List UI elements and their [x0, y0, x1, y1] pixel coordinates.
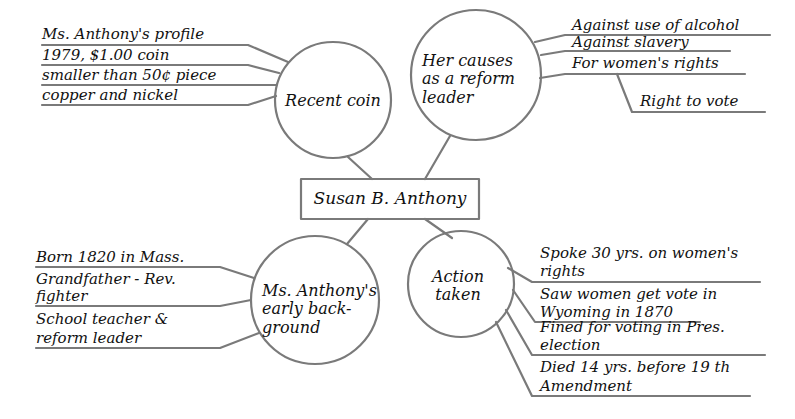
detail-action-fined-1: Fined for voting in Pres. — [540, 320, 725, 335]
node-label-early-line1: Ms. Anthony's — [262, 282, 377, 300]
detail-early-born: Born 1820 in Mass. — [36, 250, 184, 265]
detail-causes-right-to-vote: Right to vote — [640, 94, 738, 109]
detail-causes-womens-rights: For women's rights — [572, 56, 719, 71]
detail-coin-profile: Ms. Anthony's profile — [42, 27, 204, 42]
detail-action-spoke-2: rights — [540, 264, 585, 279]
detail-coin-metal: copper and nickel — [42, 88, 178, 103]
node-label-early-background: Ms. Anthony's early back- ground — [262, 282, 377, 337]
center-label: Susan B. Anthony — [301, 190, 479, 207]
detail-action-wyoming-1: Saw women get vote in — [540, 287, 717, 302]
detail-early-teacher-2: reform leader — [36, 331, 141, 346]
detail-action-died-1: Died 14 yrs. before 19 th — [540, 360, 730, 375]
detail-causes-slavery: Against slavery — [572, 35, 689, 50]
detail-action-died-2: Amendment — [540, 379, 632, 394]
mind-map-diagram: Susan B. Anthony Recent coin Ms. Anthony… — [0, 0, 795, 419]
node-label-early-line3: ground — [262, 319, 377, 337]
detail-action-fined-2: election — [540, 338, 600, 353]
detail-coin-year: 1979, $1.00 coin — [42, 48, 169, 63]
node-label-action-taken: Action taken — [418, 268, 498, 305]
connector-early — [347, 219, 368, 244]
node-label-causes-line1: Her causes — [422, 52, 532, 70]
node-label-action-line2: taken — [418, 286, 498, 304]
node-label-action-line1: Action — [418, 268, 498, 286]
detail-early-teacher-1: School teacher & — [36, 312, 168, 327]
line-causes-3 — [540, 74, 745, 78]
detail-early-grandfather-2: fighter — [36, 289, 87, 304]
node-label-causes-line3: leader — [422, 89, 532, 107]
node-label-causes: Her causes as a reform leader — [422, 52, 532, 107]
node-label-causes-line2: as a reform — [422, 70, 532, 88]
connector-recent-coin — [348, 157, 372, 179]
node-label-early-line2: early back- — [262, 300, 377, 318]
detail-causes-alcohol: Against use of alcohol — [572, 18, 739, 33]
detail-coin-size: smaller than 50¢ piece — [42, 68, 216, 83]
detail-action-spoke-1: Spoke 30 yrs. on women's — [540, 246, 738, 261]
node-label-recent-coin: Recent coin — [278, 92, 388, 110]
detail-early-grandfather-1: Grandfather - Rev. — [36, 272, 176, 287]
connector-causes — [425, 136, 450, 179]
